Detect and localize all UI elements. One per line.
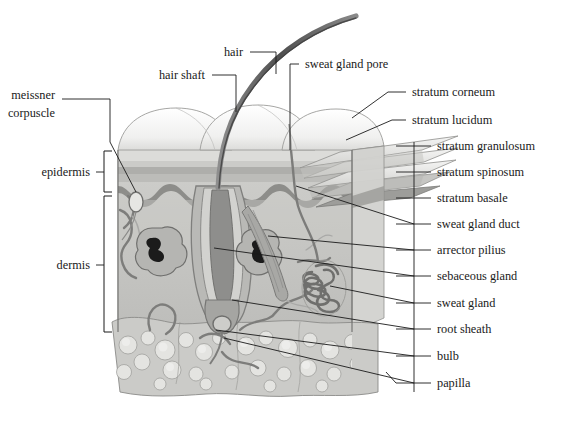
label-papilla: papilla xyxy=(386,372,471,390)
stratum-corneum-band xyxy=(118,150,352,161)
hair-shaft-label: hair shaft xyxy=(159,68,206,82)
root-sheath-label: root sheath xyxy=(437,322,491,336)
diagram-canvas: meissner corpuscle hair shaft hair sweat… xyxy=(0,0,575,435)
arrector-pilius-label: arrector pilius xyxy=(437,243,506,257)
dermis-label: dermis xyxy=(57,258,91,272)
meissner-corpuscle-label-line2: corpuscle xyxy=(8,106,56,120)
sweat-gland-duct-label: sweat gland duct xyxy=(437,217,520,231)
sweat-gland-label: sweat gland xyxy=(437,296,495,310)
meissner-corpuscle-label-line1: meissner xyxy=(11,88,55,102)
label-bulb: bulb xyxy=(396,349,459,363)
label-root-sheath: root sheath xyxy=(396,322,491,336)
skin-surface-domes xyxy=(118,105,384,150)
stratum-corneum-label: stratum corneum xyxy=(412,85,495,99)
stratum-spinosum-label: stratum spinosum xyxy=(437,165,525,179)
sweat-gland-pore-label: sweat gland pore xyxy=(305,57,389,71)
label-sweat-gland-duct: sweat gland duct xyxy=(396,217,520,231)
label-hair-shaft: hair shaft xyxy=(159,68,236,112)
label-sweat-gland: sweat gland xyxy=(396,296,495,310)
skin-anatomy-diagram: meissner corpuscle hair shaft hair sweat… xyxy=(0,0,575,435)
bracket-dermis: dermis xyxy=(57,196,112,332)
stratum-granulosum-label: stratum granulosum xyxy=(437,139,535,153)
block-right-face xyxy=(352,146,384,332)
bulb-label: bulb xyxy=(437,349,459,363)
hypodermis-fat-layer xyxy=(112,317,379,396)
epidermis-label: epidermis xyxy=(42,165,91,179)
bracket-epidermis: epidermis xyxy=(42,151,113,192)
papilla-label: papilla xyxy=(437,376,471,390)
dome-right xyxy=(282,109,384,150)
stratum-lucidum-label: stratum lucidum xyxy=(412,113,493,127)
stratum-basale-label: stratum basale xyxy=(437,191,508,205)
sebaceous-gland-label: sebaceous gland xyxy=(437,269,517,283)
hair-label: hair xyxy=(224,45,243,59)
dermal-papilla xyxy=(213,316,231,332)
